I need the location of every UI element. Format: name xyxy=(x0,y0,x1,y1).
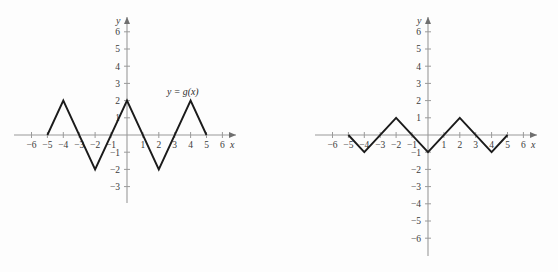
panel-left-graph: −6 −5 −4 −3 −2 −1 1 2 3 4 5 6 6 5 4 3 2 … xyxy=(0,0,279,272)
x-tick-label: 1 xyxy=(141,140,146,150)
right-x-axis-arrow xyxy=(530,132,537,138)
left-axes xyxy=(14,17,236,203)
x-tick-label: 6 xyxy=(521,140,526,150)
y-tick-label: −3 xyxy=(110,182,120,192)
right-x-axis-name: x xyxy=(530,139,536,150)
right-graph-svg: −6 −5 −4 −3 −2 −1 1 2 3 4 5 6 6 5 4 3 2 … xyxy=(279,0,558,272)
right-y-axis-arrow xyxy=(425,17,431,24)
y-tick-label: 5 xyxy=(115,44,120,54)
right-y-axis-name: y xyxy=(416,15,422,26)
x-tick-label: −5 xyxy=(42,140,52,150)
x-tick-label: −5 xyxy=(343,140,353,150)
y-tick-label: −1 xyxy=(110,148,120,158)
x-tick-label: 1 xyxy=(442,140,447,150)
left-graph-svg: −6 −5 −4 −3 −2 −1 1 2 3 4 5 6 6 5 4 3 2 … xyxy=(0,0,279,272)
y-tick-label: 4 xyxy=(416,62,421,72)
y-tick-label: 6 xyxy=(416,27,421,37)
y-tick-label: 5 xyxy=(416,44,421,54)
y-tick-label: −6 xyxy=(411,234,421,244)
y-tick-label: −1 xyxy=(411,148,421,158)
figure-root: −6 −5 −4 −3 −2 −1 1 2 3 4 5 6 6 5 4 3 2 … xyxy=(0,0,558,272)
left-x-axis-name: x xyxy=(229,139,235,150)
y-tick-label: −3 xyxy=(411,182,421,192)
y-tick-label: −2 xyxy=(411,165,421,175)
x-tick-label: 6 xyxy=(220,140,225,150)
x-tick-label: 5 xyxy=(505,140,510,150)
y-tick-label: 2 xyxy=(115,96,120,106)
x-tick-label: −2 xyxy=(391,140,401,150)
x-tick-label: 3 xyxy=(473,140,478,150)
x-tick-label: 2 xyxy=(156,140,161,150)
x-tick-label: 4 xyxy=(489,140,494,150)
x-tick-label: −6 xyxy=(327,140,337,150)
y-tick-label: −5 xyxy=(411,216,421,226)
x-tick-label: −2 xyxy=(90,140,100,150)
left-y-axis-arrow xyxy=(124,17,130,24)
y-tick-label: −4 xyxy=(411,199,421,209)
x-tick-label: 2 xyxy=(457,140,462,150)
y-tick-label: 2 xyxy=(416,96,421,106)
x-tick-label: −3 xyxy=(375,140,385,150)
x-tick-label: −6 xyxy=(26,140,36,150)
y-tick-label: −2 xyxy=(110,165,120,175)
left-x-axis-arrow xyxy=(229,132,236,138)
y-tick-label: 6 xyxy=(115,27,120,37)
left-x-tick-labels: −6 −5 −4 −3 −2 −1 1 2 3 4 5 6 xyxy=(26,140,225,150)
left-y-axis-name: y xyxy=(115,15,121,26)
left-curve-label: y = g(x) xyxy=(167,86,199,97)
y-tick-label: 4 xyxy=(115,62,120,72)
x-tick-label: 4 xyxy=(188,140,193,150)
y-tick-label: 1 xyxy=(416,113,421,123)
left-y-tick-labels: 6 5 4 3 2 1 −1 −2 −3 xyxy=(110,27,120,192)
x-tick-label: −4 xyxy=(58,140,68,150)
y-tick-label: 3 xyxy=(115,79,120,89)
y-tick-label: 3 xyxy=(416,79,421,89)
x-tick-label: 5 xyxy=(204,140,209,150)
panel-right-graph: −6 −5 −4 −3 −2 −1 1 2 3 4 5 6 6 5 4 3 2 … xyxy=(279,0,558,272)
x-tick-label: 3 xyxy=(172,140,177,150)
